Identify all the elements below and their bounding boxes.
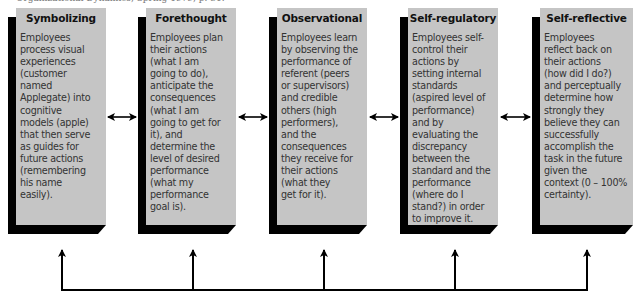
feedback-bus xyxy=(62,250,588,291)
connector-layer xyxy=(0,0,635,301)
